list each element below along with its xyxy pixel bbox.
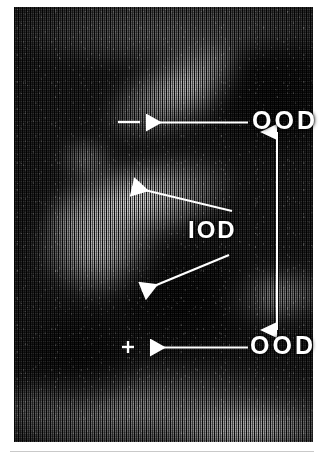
page-margin-left: [0, 0, 14, 456]
figure-page: OOD IOD OOD: [0, 0, 324, 456]
echo-blob-upper-left-spot: [58, 139, 114, 181]
annotation-label-iod: IOD: [188, 218, 237, 242]
page-horizontal-rule: [10, 451, 314, 452]
page-margin-bottom: [0, 442, 324, 456]
annotation-label-ood-top: OOD: [252, 108, 318, 133]
page-margin-top: [0, 0, 324, 7]
page-margin-right: [313, 0, 324, 456]
ultrasound-scan-image: [14, 7, 313, 442]
annotation-label-ood-bottom: OOD: [250, 333, 316, 358]
echo-shadow-lower-left: [20, 307, 140, 407]
